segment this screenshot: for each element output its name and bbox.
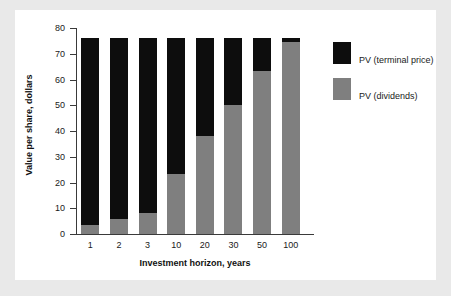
- bar-segment-terminal-price: [253, 38, 271, 70]
- bar-10: [167, 38, 185, 234]
- x-axis-title: Investment horizon, years: [76, 258, 314, 268]
- chart-legend: PV (terminal price) PV (dividends): [333, 42, 451, 114]
- legend-entry-terminal-price: PV (terminal price): [333, 42, 451, 78]
- y-axis-tick-label: 0: [25, 230, 65, 239]
- bar-50: [253, 38, 271, 234]
- bar-segment-terminal-price: [81, 38, 99, 225]
- bar-segment-dividends: [224, 105, 242, 234]
- plot-area: [76, 28, 305, 234]
- bar-segment-dividends: [167, 174, 185, 235]
- bar-segment-terminal-price: [110, 38, 128, 218]
- y-axis-tick-label: 10: [25, 204, 65, 213]
- chart-figure: 01020304050607080 12310203050100 Investm…: [0, 0, 451, 296]
- legend-swatch-dividends: [333, 78, 351, 100]
- bar-segment-dividends: [282, 42, 300, 234]
- bar-segment-terminal-price: [167, 38, 185, 173]
- x-axis-line: [76, 234, 314, 235]
- bar-100: [282, 38, 300, 234]
- bar-segment-dividends: [253, 71, 271, 235]
- bar-segment-dividends: [139, 213, 157, 234]
- y-axis-title: Value per share, dollars: [24, 45, 34, 205]
- bar-segment-terminal-price: [224, 38, 242, 105]
- bar-segment-dividends: [110, 219, 128, 234]
- x-axis-tick-label-100: 100: [271, 240, 311, 250]
- y-axis-tick: [70, 234, 76, 235]
- legend-label-terminal-price: PV (terminal price): [359, 55, 434, 65]
- bar-30: [224, 38, 242, 234]
- bar-2: [110, 38, 128, 234]
- legend-entry-dividends: PV (dividends): [333, 78, 451, 114]
- chart-panel: 01020304050607080 12310203050100 Investm…: [15, 10, 436, 280]
- bar-segment-terminal-price: [196, 38, 214, 136]
- legend-label-dividends: PV (dividends): [359, 91, 418, 101]
- bar-3: [139, 38, 157, 234]
- bar-segment-dividends: [196, 136, 214, 234]
- y-axis-tick-label: 80: [25, 24, 65, 33]
- bar-20: [196, 38, 214, 234]
- bar-1: [81, 38, 99, 234]
- bar-segment-terminal-price: [139, 38, 157, 213]
- bar-segment-dividends: [81, 225, 99, 234]
- legend-swatch-terminal-price: [333, 42, 351, 64]
